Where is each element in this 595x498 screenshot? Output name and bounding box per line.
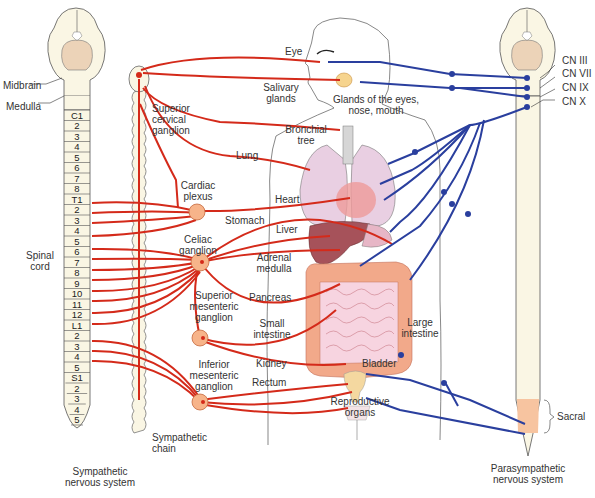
- spinal-segment-label: 2: [74, 330, 79, 341]
- label-pancreas: Pancreas: [249, 292, 291, 303]
- spinal-segment-label: 3: [74, 341, 79, 352]
- label-salivary-glands: Salivary glands: [256, 82, 306, 104]
- label-medulla: Medulla: [6, 101, 41, 112]
- label-small-intestine: Small intestine: [250, 318, 294, 340]
- spinal-segment-label: 4: [74, 225, 79, 236]
- label-cardiac-plexus: Cardiac plexus: [178, 180, 218, 202]
- spinal-segment-label: 4: [74, 141, 79, 152]
- caption-sympathetic: Sympathetic nervous system: [60, 466, 140, 488]
- left-brain: [48, 8, 105, 96]
- spinal-segment-label: 10: [72, 288, 83, 299]
- label-large-intestine: Large intestine: [398, 317, 442, 339]
- spinal-segment-label: 7: [74, 257, 79, 268]
- label-eye: Eye: [285, 46, 302, 57]
- spinal-segment-label: 7: [74, 173, 79, 184]
- spinal-segment-label: 6: [74, 246, 79, 257]
- spinal-segment-label: 2: [74, 204, 79, 215]
- label-celiac-ganglion: Celiac ganglion: [176, 234, 220, 256]
- label-cn-iii: CN III: [562, 55, 588, 66]
- spinal-segment-label: 3: [74, 215, 79, 226]
- spinal-segment-label: S1: [71, 372, 83, 383]
- spinal-segment-label: 5: [74, 236, 79, 247]
- spinal-segment-label: L1: [72, 320, 83, 331]
- label-cn-vii: CN VII: [562, 68, 591, 79]
- spinal-segment-label: 11: [72, 299, 82, 310]
- label-bladder: Bladder: [362, 358, 396, 369]
- label-superior-mesenteric-ganglion: Superior mesenteric ganglion: [186, 290, 242, 323]
- label-spinal-cord: Spinal cord: [24, 250, 56, 272]
- spinal-segment-label: 5: [74, 414, 79, 425]
- label-reproductive-organs: Reproductive organs: [328, 396, 392, 418]
- label-lung: Lung: [236, 150, 258, 161]
- label-cn-x: CN X: [562, 96, 586, 107]
- spinal-segment-label: 5: [74, 362, 79, 373]
- label-bronchial-tree: Bronchial tree: [282, 124, 330, 146]
- label-rectum: Rectum: [252, 377, 286, 388]
- spinal-segment-label: 2: [74, 120, 79, 131]
- autonomic-nervous-system-diagram: C12345678T123456789101112L12345S12345: [0, 0, 595, 498]
- label-kidney: Kidney: [256, 358, 287, 369]
- spinal-segment-label: 4: [74, 351, 79, 362]
- spinal-segment-label: 8: [74, 183, 79, 194]
- label-sacral: Sacral: [557, 411, 585, 422]
- spinal-segment-label: 8: [74, 267, 79, 278]
- label-liver: Liver: [276, 224, 298, 235]
- spinal-segment-label: T1: [71, 194, 82, 205]
- label-glands-eyes-nose-mouth: Glands of the eyes, nose, mouth: [330, 94, 422, 116]
- label-midbrain: Midbrain: [3, 80, 41, 91]
- spinal-segment-label: C1: [71, 110, 83, 121]
- label-heart: Heart: [275, 194, 299, 205]
- caption-parasympathetic: Parasympathetic nervous system: [488, 463, 568, 485]
- spinal-segment-label: 5: [74, 152, 79, 163]
- label-superior-cervical-ganglion: Superior cervical ganglion: [152, 103, 222, 136]
- spinal-segment-label: 4: [74, 404, 79, 415]
- spinal-segment-label: 3: [74, 131, 79, 142]
- label-sympathetic-chain: Sympathetic chain: [152, 432, 212, 454]
- spinal-segment-label: 9: [74, 278, 79, 289]
- spinal-segment-label: 12: [72, 309, 83, 320]
- label-adrenal-medulla: Adrenal medulla: [252, 252, 296, 274]
- spinal-segment-label: 2: [74, 383, 79, 394]
- spinal-segment-label: 6: [74, 162, 79, 173]
- label-stomach: Stomach: [225, 215, 264, 226]
- spinal-segment-label: 3: [74, 393, 79, 404]
- label-inferior-mesenteric-ganglion: Inferior mesenteric ganglion: [186, 359, 242, 392]
- label-cn-ix: CN IX: [562, 82, 589, 93]
